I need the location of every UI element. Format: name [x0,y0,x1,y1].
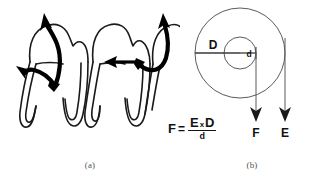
formula-numerator-E: E [190,116,199,129]
caption-panel-b: (b) [178,160,326,170]
formula-numerator-D: D [205,116,214,129]
tooth-center-crown [93,24,150,64]
label-E: E [281,126,289,140]
force-formula: F = E x D d [168,116,216,141]
formula-times-symbol: x [200,121,204,129]
formula-equals: = [178,123,185,135]
caption-panel-a: (a) [0,160,180,170]
formula-fraction: E x D d [188,116,217,141]
tooth-center-root2-inner [127,65,143,120]
figure-root: D d F E F = E x D d (a) (b) [0,0,326,190]
label-D: D [209,38,218,52]
tooth-left-root2-inner [65,63,81,120]
teeth-svg [0,0,180,160]
label-F: F [252,126,259,140]
formula-numerator: E x D [188,116,217,130]
label-d: d [246,49,251,59]
formula-lhs: F [168,122,176,135]
tooth-right-root-inner [152,66,160,110]
arrow-right-extrusion [141,26,168,70]
formula-denominator: d [199,131,205,141]
